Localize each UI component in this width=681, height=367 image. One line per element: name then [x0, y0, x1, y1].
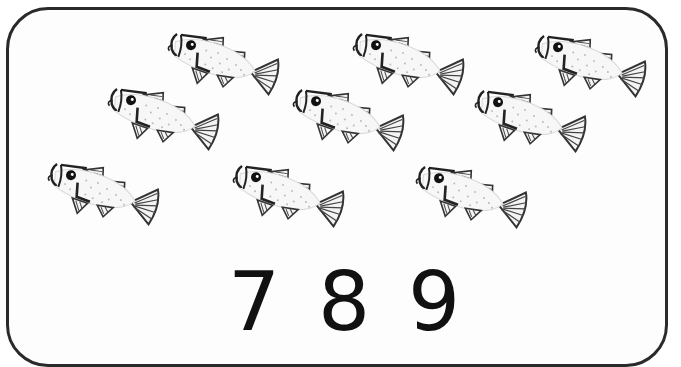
fish-icon [40, 160, 164, 226]
fish-icon [467, 87, 591, 153]
fish-icon [225, 162, 349, 228]
fish-icon [408, 163, 532, 229]
number-option-7[interactable]: 7 [228, 262, 280, 342]
number-option-8[interactable]: 8 [318, 262, 370, 342]
number-option-9[interactable]: 9 [408, 262, 460, 342]
fish-icon [285, 86, 409, 152]
fish-icon [100, 85, 224, 151]
number-choices: 7 8 9 [0, 262, 681, 342]
